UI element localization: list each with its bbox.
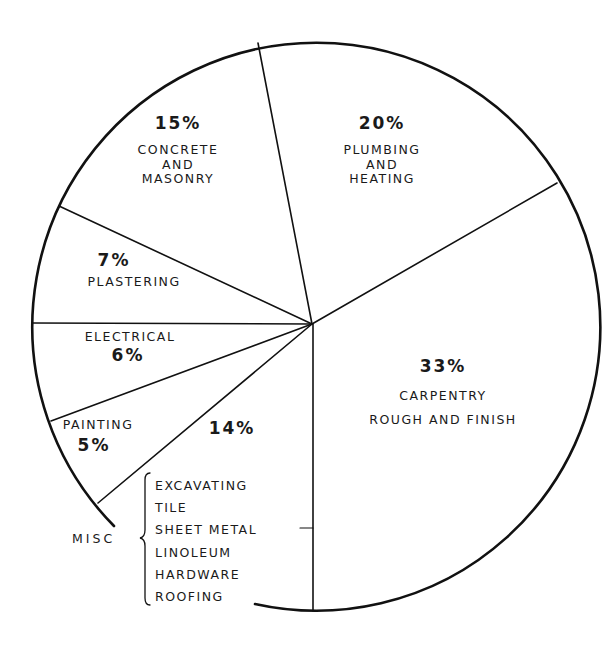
pie-chart (0, 0, 615, 651)
slice-concrete-label: CONCRETE AND MASONRY (138, 143, 219, 187)
label-line: CARPENTRY (369, 389, 516, 404)
pie-outline (32, 43, 600, 611)
label-line: PLUMBING (343, 143, 420, 158)
misc-item: SHEET METAL (155, 519, 257, 541)
misc-item: TILE (155, 497, 257, 519)
misc-item: HARDWARE (155, 564, 257, 586)
slice-carpentry-percent: 33% (420, 358, 467, 375)
label-line: CONCRETE (138, 143, 219, 158)
misc-items-list: EXCAVATING TILE SHEET METAL LINOLEUM HAR… (155, 475, 257, 608)
misc-item: EXCAVATING (155, 475, 257, 497)
slice-painting-label: PAINTING (63, 418, 134, 433)
slice-carpentry-label: CARPENTRY ROUGH AND FINISH (369, 389, 516, 427)
slice-electrical-label: ELECTRICAL (85, 330, 176, 345)
slice-plumbing-percent: 20% (359, 115, 406, 132)
divider-electrical-plastering (32, 323, 312, 324)
slice-plastering-label: PLASTERING (87, 275, 180, 290)
slice-misc-group-label: MISC (72, 532, 115, 547)
slice-plastering-percent: 7% (98, 252, 131, 269)
slice-misc-percent: 14% (209, 420, 256, 437)
misc-item: ROOFING (155, 586, 257, 608)
divider-concrete-plumbing (258, 43, 312, 324)
misc-brace (140, 473, 150, 605)
label-line: HEATING (343, 172, 420, 187)
label-line: AND (343, 158, 420, 173)
slice-plumbing-label: PLUMBING AND HEATING (343, 143, 420, 187)
label-line: MASONRY (138, 172, 219, 187)
slice-painting-percent: 5% (78, 437, 111, 454)
slice-electrical-percent: 6% (112, 347, 145, 364)
slice-concrete-percent: 15% (155, 115, 202, 132)
misc-item: LINOLEUM (155, 542, 257, 564)
label-line: AND (138, 158, 219, 173)
label-line: ROUGH AND FINISH (369, 413, 516, 428)
divider-plumbing-carpentry (312, 183, 557, 324)
